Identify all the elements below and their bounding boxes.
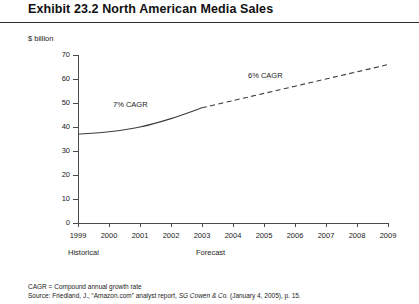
source-suffix: (January 4, 2005), p. 15. (228, 292, 301, 299)
x-tick-label: 2004 (216, 231, 250, 240)
x-tick-mark (295, 223, 296, 227)
source-prefix: Source: Friedland, J., “Amazon.com” anal… (28, 292, 179, 299)
x-tick-mark (171, 223, 172, 227)
x-tick-mark (109, 223, 110, 227)
x-tick-label: 1999 (61, 231, 95, 240)
x-tick-label: 2009 (371, 231, 405, 240)
y-tick-mark (73, 103, 78, 104)
x-tick-mark (326, 223, 327, 227)
y-tick-mark (73, 55, 78, 56)
x-tick-mark (140, 223, 141, 227)
series-forecast-line (202, 65, 388, 108)
footnote-source: Source: Friedland, J., “Amazon.com” anal… (28, 292, 301, 299)
y-tick-label: 10 (48, 194, 70, 203)
x-tick-mark (357, 223, 358, 227)
chart-plot-area: 010203040506070 199920002001200220032004… (0, 0, 419, 304)
x-tick-label: 2007 (309, 231, 343, 240)
x-tick-mark (202, 223, 203, 227)
y-tick-mark (73, 127, 78, 128)
series-historical-line (78, 108, 202, 134)
y-tick-mark (73, 175, 78, 176)
y-tick-label: 0 (48, 218, 70, 227)
x-tick-label: 2005 (247, 231, 281, 240)
y-tick-label: 40 (48, 122, 70, 131)
x-tick-label: 2006 (278, 231, 312, 240)
annotation-forecast-cagr: 6% CAGR (248, 71, 283, 80)
y-tick-mark (73, 151, 78, 152)
x-tick-label: 2001 (123, 231, 157, 240)
y-tick-label: 50 (48, 98, 70, 107)
source-publisher: SG Cowen & Co. (179, 292, 229, 299)
period-label-historical: Historical (68, 248, 99, 257)
x-tick-mark (388, 223, 389, 227)
x-tick-mark (264, 223, 265, 227)
y-tick-mark (73, 199, 78, 200)
y-tick-label: 70 (48, 50, 70, 59)
x-tick-label: 2003 (185, 231, 219, 240)
x-tick-label: 2002 (154, 231, 188, 240)
x-tick-label: 2008 (340, 231, 374, 240)
y-tick-label: 60 (48, 74, 70, 83)
period-label-forecast: Forecast (196, 248, 225, 257)
y-tick-mark (73, 79, 78, 80)
footnote-cagr-definition: CAGR = Compound annual growth rate (28, 283, 142, 290)
x-tick-mark (78, 223, 79, 227)
annotation-historical-cagr: 7% CAGR (113, 100, 148, 109)
y-tick-label: 20 (48, 170, 70, 179)
x-tick-label: 2000 (92, 231, 126, 240)
x-tick-mark (233, 223, 234, 227)
y-tick-label: 30 (48, 146, 70, 155)
